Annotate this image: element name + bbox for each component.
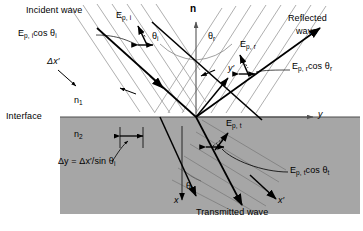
Epi-proj-theta-subscript: i xyxy=(55,32,57,39)
Ept-vector-label: Ep, t xyxy=(226,119,242,129)
Epi-vector xyxy=(138,26,148,47)
Epi-projection-label: Ep, icos θi xyxy=(18,29,57,39)
n1-label: n1 xyxy=(74,96,83,106)
Epi-subscript: p, i xyxy=(122,14,131,21)
normal-vector-label: n xyxy=(190,4,196,15)
Epr-vector-label: Ep, r xyxy=(240,40,256,50)
Ept-proj-cos: cos θ xyxy=(306,165,328,175)
delta-y-theta-subscript: i xyxy=(114,160,116,167)
reflected-wave-label-line2: wave xyxy=(296,27,317,36)
theta-t-subscript: t xyxy=(191,185,193,192)
optics-interface-diagram: Incident wave Reflected wave Transmitted… xyxy=(0,0,363,231)
n2-subscript: 2 xyxy=(79,133,83,140)
Epr-proj-subscript: p, r xyxy=(298,65,308,72)
x-prime-axis-label: x′ xyxy=(278,196,284,205)
delta-y-equation-label: Δy = Δx′/sin θi xyxy=(58,157,115,167)
interface-label: Interface xyxy=(6,112,42,121)
theta-r-label: θr xyxy=(208,32,215,42)
Ept-subscript: p, t xyxy=(232,122,241,129)
n2-label: n2 xyxy=(74,130,83,140)
delta-x-prime-arrow xyxy=(58,70,76,86)
Ept-projection-label: Ep, tcos θt xyxy=(290,166,329,176)
Epr-subscript: p, r xyxy=(246,43,256,50)
theta-t-label: θt xyxy=(186,182,193,192)
n1-subscript: 1 xyxy=(79,99,83,106)
Epr-projection-label: Ep, rcos θr xyxy=(292,62,332,72)
Ept-proj-subscript: p, t xyxy=(296,169,305,176)
y-prime-axis-label: y′ xyxy=(228,64,234,73)
reflected-wave-label-line1: Reflected xyxy=(288,14,327,23)
delta-y-rhs: = Δx′/sin θ xyxy=(71,156,114,166)
wavefront-direction-arrow xyxy=(120,88,136,94)
Epi-proj-subscript: p, i xyxy=(24,32,33,39)
Ept-proj-theta-subscript: t xyxy=(328,169,330,176)
x-axis-label: x xyxy=(174,196,179,205)
Epi-projection-leader xyxy=(96,35,138,45)
theta-i-label: θi xyxy=(152,32,159,42)
theta-i-subscript: i xyxy=(157,35,159,42)
incident-wave-label: Incident wave xyxy=(26,6,82,15)
Epr-vector xyxy=(240,55,249,76)
theta-i-arc xyxy=(160,44,196,60)
y-axis-label: y xyxy=(318,110,323,119)
Epi-vector-label: Ep, i xyxy=(116,11,131,21)
Epi-proj-cos: cos θ xyxy=(33,28,55,38)
Epr-proj-theta-subscript: r xyxy=(330,65,332,72)
theta-r-subscript: r xyxy=(213,35,215,42)
transmitted-wave-label: Transmitted wave xyxy=(196,208,268,217)
delta-y-lhs: Δy xyxy=(58,156,69,166)
Epr-proj-cos: cos θ xyxy=(308,61,330,71)
theta-r-arc xyxy=(196,44,232,60)
delta-x-prime-label: Δx′ xyxy=(47,57,60,66)
